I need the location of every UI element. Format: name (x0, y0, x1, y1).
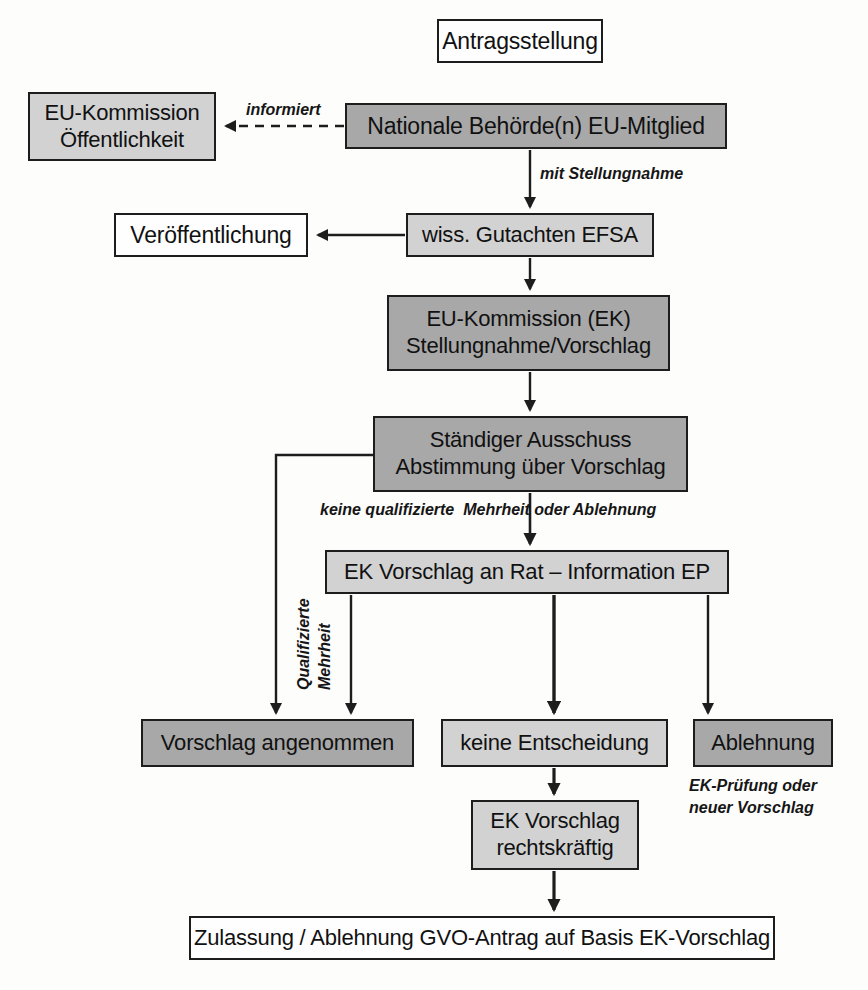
node-zulassung-ablehnung-gvo[interactable]: Zulassung / Ablehnung GVO-Antrag auf Bas… (189, 916, 775, 960)
node-ek-vorschlag-an-rat[interactable]: EK Vorschlag an Rat – Information EP (325, 550, 729, 594)
node-keine-entscheidung[interactable]: keine Entscheidung (441, 719, 668, 767)
flowchart-canvas: Antragsstellung EU-Kommission Öffentlich… (0, 0, 868, 990)
node-nationale-behoerde[interactable]: Nationale Behörde(n) EU-Mitglied (345, 103, 727, 149)
node-eu-kommission-ek[interactable]: EU-Kommission (EK) Stellungnahme/Vorschl… (387, 295, 670, 371)
node-antragsstellung[interactable]: Antragsstellung (437, 19, 603, 63)
node-ablehnung[interactable]: Ablehnung (693, 719, 833, 767)
node-eu-kommission-oeffentlichkeit[interactable]: EU-Kommission Öffentlichkeit (28, 92, 216, 161)
edge-label-qualifizierte-mehrheit-line1: Qualifizierte (294, 598, 313, 690)
note-ek-pruefung-oder-neuer-vorschlag: EK-Prüfung oder neuer Vorschlag (689, 775, 817, 818)
node-staendiger-ausschuss[interactable]: Ständiger Ausschuss Abstimmung über Vors… (373, 416, 688, 492)
node-ek-vorschlag-rechtskraeftig[interactable]: EK Vorschlag rechtskräftig (471, 800, 639, 870)
edge-label-informiert: informiert (246, 100, 321, 120)
edge-label-mit-stellungnahme: mit Stellungnahme (540, 164, 683, 184)
edge-label-keine-qualifizierte-mehrheit: keine qualifizierte Mehrheit oder Ablehn… (320, 500, 656, 520)
edge-label-qualifizierte-mehrheit-line2: Mehrheit (315, 623, 334, 690)
node-wiss-gutachten-efsa[interactable]: wiss. Gutachten EFSA (406, 213, 654, 257)
node-vorschlag-angenommen[interactable]: Vorschlag angenommen (141, 719, 414, 767)
node-veroeffentlichung[interactable]: Veröffentlichung (114, 213, 308, 257)
